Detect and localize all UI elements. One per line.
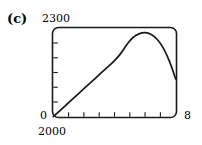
figure-panel: (c) 2300 0 2000 8 — [0, 0, 202, 145]
plot-area — [0, 0, 202, 145]
